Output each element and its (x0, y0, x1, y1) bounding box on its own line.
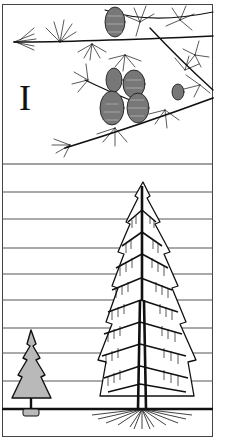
illustration (0, 0, 228, 441)
larch-branch-illustration (14, 6, 213, 157)
larch-cones (100, 7, 184, 125)
panel-label: I (19, 80, 31, 116)
small-tree-illustration (12, 330, 51, 416)
